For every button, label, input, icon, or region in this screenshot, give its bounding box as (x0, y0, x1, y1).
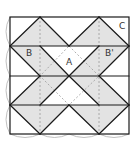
label-b-prime: B' (105, 48, 114, 58)
quilt-diagram: A B B' C (0, 0, 139, 149)
parallelogram-b (10, 46, 69, 76)
top-left-triangle (10, 17, 69, 46)
label-b: B (26, 48, 32, 58)
parallelogram-lower-left (10, 76, 69, 105)
label-a: A (66, 57, 73, 67)
bottom-left-triangle (10, 105, 69, 134)
label-c: C (119, 21, 125, 31)
